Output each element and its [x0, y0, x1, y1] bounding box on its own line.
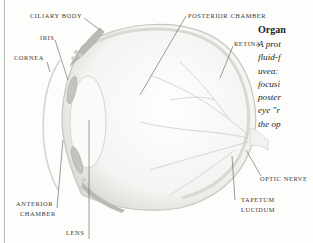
sidebar-line: the op	[258, 118, 313, 131]
label-anterior-chamber-1: ANTERIOR	[16, 200, 53, 208]
sidebar-line: A prot	[258, 38, 313, 51]
label-anterior-chamber-2: CHAMBER	[20, 210, 56, 218]
label-lens: LENS	[66, 229, 84, 237]
label-optic-nerve: OPTIC NERVE	[260, 175, 307, 183]
sidebar-line: eye "r	[258, 104, 313, 117]
sidebar-body: A prot fluid-f uvea: focusi poster eye "…	[258, 38, 313, 131]
sidebar-text-block: Organ A prot fluid-f uvea: focusi poster…	[258, 24, 313, 131]
sidebar-title: Organ	[258, 24, 313, 36]
sidebar-line: uvea:	[258, 65, 313, 78]
label-cornea: CORNEA	[14, 54, 44, 62]
label-tapetum-2: LUCIDUM	[241, 206, 275, 214]
label-retina: RETINA	[234, 40, 261, 48]
label-tapetum-1: TAPETUM	[241, 196, 275, 204]
label-posterior-chamber: POSTERIOR CHAMBER	[188, 12, 266, 20]
sidebar-line: poster	[258, 91, 313, 104]
label-ciliary-body: CILIARY BODY	[30, 12, 82, 20]
sidebar-line: focusi	[258, 78, 313, 91]
sidebar-line: fluid-f	[258, 51, 313, 64]
label-iris: IRIS	[40, 34, 54, 42]
